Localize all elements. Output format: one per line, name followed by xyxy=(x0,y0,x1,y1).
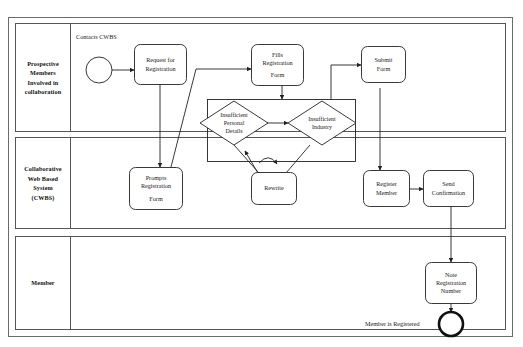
lane-label-cwbs: Collaborative Web Based System (CWBS) xyxy=(24,164,61,202)
task-label-line: Fills xyxy=(262,51,292,59)
task-prompts-registration-form-label: Prompts Registration Form xyxy=(141,174,171,203)
gateway-label-line: Details xyxy=(220,127,248,135)
lane-label-line: (CWBS) xyxy=(24,193,61,203)
lane-label-member: Member xyxy=(31,278,54,288)
lane-label-prospective-members: Prospective Members Involved in collabor… xyxy=(25,59,61,97)
task-label-line: Form xyxy=(141,195,171,203)
lane-label-line: Member xyxy=(31,278,54,288)
task-note-registration-number-label: Note Registration Number xyxy=(436,271,466,296)
gateway-label-line: Personal xyxy=(220,119,248,127)
task-fills-registration-form-label: Fills Registration Form xyxy=(262,51,292,80)
end-event-label: Member is Registered xyxy=(365,320,420,328)
task-label-line: Confirmation xyxy=(432,189,465,197)
gateway-label-line: Insufficient xyxy=(308,115,336,123)
task-label-line: Form xyxy=(262,71,292,79)
task-label-line: Registration xyxy=(141,182,171,190)
task-label-line: Rewrite xyxy=(264,184,284,192)
lane-label-line: System xyxy=(24,183,61,193)
task-label-line: Request for xyxy=(145,56,175,64)
task-request-registration-label: Request for Registration xyxy=(145,56,175,72)
task-label-line: Number xyxy=(436,287,466,295)
task-send-confirmation-label: Send Confirmation xyxy=(432,180,465,196)
start-event-label: Contacts CWBS xyxy=(76,33,117,41)
start-event-circle[interactable] xyxy=(86,57,112,83)
task-label-line: Submit xyxy=(375,56,393,64)
task-label-line: Register xyxy=(376,180,397,188)
lane-label-line: Collaborative xyxy=(24,164,61,174)
task-label-line: Note xyxy=(436,271,466,279)
diagram-canvas: Prospective Members Involved in collabor… xyxy=(0,0,523,347)
task-label-line: Form xyxy=(375,65,393,73)
task-label-line: Registration xyxy=(436,279,466,287)
gateway-label-line: Insufficient xyxy=(220,111,248,119)
lane-label-line: Web Based xyxy=(24,174,61,184)
task-label-line: Prompts xyxy=(141,174,171,182)
gateway-insufficient-industry-label: Insufficient Industry xyxy=(308,115,336,131)
task-label-line: Registration xyxy=(145,65,175,73)
task-register-member-label: Register Member xyxy=(376,180,397,196)
lane-label-line: Prospective xyxy=(25,59,61,69)
lane-label-line: Members xyxy=(25,68,61,78)
lane-label-line: Involved in xyxy=(25,78,61,88)
task-rewrite-label: Rewrite xyxy=(264,184,284,192)
task-label-line: Send xyxy=(432,180,465,188)
gateway-insufficient-personal-details-label: Insufficient Personal Details xyxy=(220,111,248,135)
task-label-line: Member xyxy=(376,189,397,197)
task-label-line: Registration xyxy=(262,59,292,67)
end-event-circle[interactable] xyxy=(439,312,463,336)
task-submit-form-label: Submit Form xyxy=(375,56,393,72)
gateway-label-line: Industry xyxy=(308,123,336,131)
lane-label-line: collaboration xyxy=(25,87,61,97)
